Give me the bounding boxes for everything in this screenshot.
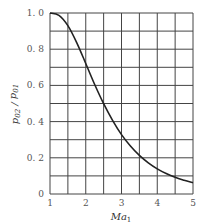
x-tick-label: 1 <box>47 198 53 208</box>
y-tick-label: 1. 0 <box>27 8 44 18</box>
y-tick-label: 0 <box>38 189 44 199</box>
y-tick-label: 0. 4 <box>27 117 44 127</box>
chart: 00. 20. 40. 60. 81. 0 12345 Ma1 p02 / p0… <box>0 0 198 223</box>
y-tick-label: 0. 6 <box>27 80 44 90</box>
x-tick-label: 5 <box>190 198 196 208</box>
y-tick-label: 0. 2 <box>27 153 44 163</box>
x-tick-label: 3 <box>119 198 125 208</box>
y-axis-ticks: 00. 20. 40. 60. 81. 0 <box>27 8 44 199</box>
y-tick-label: 0. 8 <box>27 44 44 54</box>
x-axis-label: Ma1 <box>110 211 132 223</box>
x-tick-label: 4 <box>154 198 160 208</box>
grid <box>50 13 193 194</box>
x-axis-ticks: 12345 <box>47 198 196 208</box>
x-tick-label: 2 <box>83 198 89 208</box>
y-axis-label: p02 / p01 <box>7 84 22 124</box>
